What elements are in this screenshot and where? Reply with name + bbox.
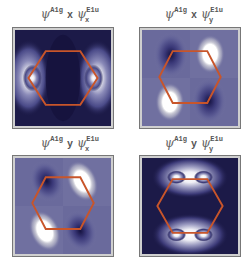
label-a1g-x-e1u-y: ψA1gxψE1uy (134, 6, 244, 21)
orbital-plot-a1g-y-e1u-x (13, 156, 113, 256)
label-a1g-x-e1u-x: ψA1gxψE1ux (10, 6, 120, 21)
orbital-plot-a1g-x-e1u-x (13, 28, 113, 128)
label-a1g-y-e1u-y: ψA1gyψE1uy (134, 135, 244, 150)
orbital-plot-a1g-x-e1u-y (140, 28, 240, 128)
label-a1g-y-e1u-x: ψA1gyψE1ux (10, 135, 120, 150)
orbital-plot-a1g-y-e1u-y (140, 156, 240, 256)
